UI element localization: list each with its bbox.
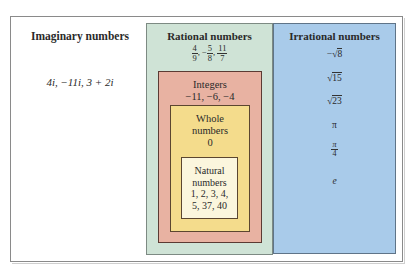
natural-numbers-values-line2: 5, 37, 40	[181, 200, 238, 212]
whole-numbers-values: 0	[170, 137, 250, 149]
rational-numbers-values: 4 9 , − 5 8 , 11 7	[146, 44, 273, 62]
irrational-numbers-title: Irrational numbers	[273, 30, 396, 42]
irrational-item-sqrt23: √23	[273, 96, 396, 106]
natural-numbers-label: Natural numbers 1, 2, 3, 4, 5, 37, 40	[181, 165, 238, 211]
whole-numbers-label: Whole numbers 0	[170, 113, 250, 149]
irrational-item-pi-over-4: π 4	[273, 141, 396, 158]
irrational-item-sqrt15: √15	[273, 73, 396, 83]
irrational-item-neg-sqrt8: −√8	[273, 49, 396, 59]
denominator: 7	[217, 54, 227, 63]
irrational-item-e: e	[273, 176, 396, 186]
rational-numbers-title: Rational numbers	[146, 30, 273, 42]
integers-label: Integers −11, −6, −4	[158, 79, 262, 103]
denominator: 4	[331, 150, 337, 158]
natural-numbers-title-line1: Natural	[181, 165, 238, 177]
fraction: π 4	[331, 141, 337, 158]
fraction: 11 7	[217, 44, 227, 62]
natural-numbers-title-line2: numbers	[181, 177, 238, 189]
whole-numbers-title-line2: numbers	[170, 125, 250, 137]
imaginary-numbers-values: 4i, −11i, 3 + 2i	[20, 76, 140, 88]
radicand: 23	[332, 95, 342, 106]
integers-title: Integers	[158, 79, 262, 91]
irrational-item-pi: π	[273, 120, 396, 130]
imaginary-numbers-title: Imaginary numbers	[20, 30, 140, 42]
radicand: 15	[332, 72, 342, 83]
natural-numbers-values-line1: 1, 2, 3, 4,	[181, 188, 238, 200]
whole-numbers-title-line1: Whole	[170, 113, 250, 125]
integers-values: −11, −6, −4	[158, 91, 262, 103]
radicand: 8	[337, 48, 342, 59]
